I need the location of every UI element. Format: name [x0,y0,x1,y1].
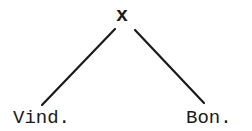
root-node-label: x [116,6,128,26]
edge-root-to-right [135,30,204,103]
edge-root-to-left [42,29,115,105]
right-child-label: Bon. [186,109,232,128]
tree-diagram: x Vind. Bon. [0,0,252,131]
left-child-label: Vind. [13,109,70,128]
